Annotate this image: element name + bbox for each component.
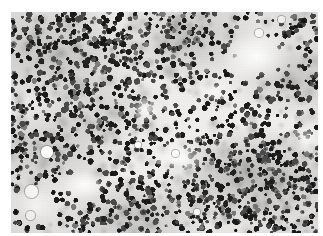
micrograph-field (11, 12, 318, 233)
vignette-overlay (11, 12, 318, 233)
image-caption: Grayscale photomicrograph of a hypercell… (0, 0, 1, 1)
micrograph-page: Grayscale photomicrograph of a hypercell… (0, 0, 323, 236)
